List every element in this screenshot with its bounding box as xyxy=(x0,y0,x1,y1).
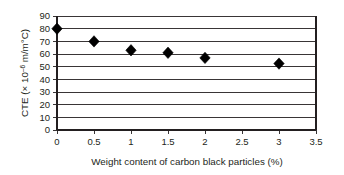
y-tick-label-0: 0 xyxy=(45,124,50,135)
x-tick-label-3: 3 xyxy=(276,136,281,147)
x-tick-label-1: 1 xyxy=(128,136,133,147)
y-axis-title: CTE (× 10–6 m/m°C) xyxy=(19,29,30,117)
y-axis-title-suffix: m/m°C) xyxy=(19,29,30,65)
x-axis-title: Weight content of carbon black particles… xyxy=(91,156,283,167)
x-tick-label-2: 2 xyxy=(202,136,207,147)
y-axis-title-prefix: CTE (× 10 xyxy=(19,72,30,117)
y-tick-label-10: 10 xyxy=(39,112,50,123)
x-tick-label-1.5: 1.5 xyxy=(161,136,174,147)
x-tick-label-3.5: 3.5 xyxy=(309,136,322,147)
x-tick-label-0.5: 0.5 xyxy=(87,136,100,147)
y-tick-label-20: 20 xyxy=(39,99,50,110)
y-tick-label-70: 70 xyxy=(39,36,50,47)
y-tick-label-30: 30 xyxy=(39,86,50,97)
y-tick-label-60: 60 xyxy=(39,48,50,59)
x-tick-label-0: 0 xyxy=(54,136,59,147)
y-tick-label-80: 80 xyxy=(39,23,50,34)
y-axis-tick-labels: 90 80 70 60 50 40 30 20 10 0 xyxy=(39,10,50,135)
chart-figure: 90 80 70 60 50 40 30 20 10 0 0 0.5 1 xyxy=(0,0,344,175)
svg-text:CTE (× 10–6 m/m°C): CTE (× 10–6 m/m°C) xyxy=(19,29,30,117)
y-tick-label-40: 40 xyxy=(39,74,50,85)
chart-background xyxy=(0,0,344,175)
y-tick-label-90: 90 xyxy=(39,10,50,21)
y-tick-label-50: 50 xyxy=(39,61,50,72)
scatter-chart: 90 80 70 60 50 40 30 20 10 0 0 0.5 1 xyxy=(0,0,344,175)
x-tick-label-2.5: 2.5 xyxy=(235,136,248,147)
